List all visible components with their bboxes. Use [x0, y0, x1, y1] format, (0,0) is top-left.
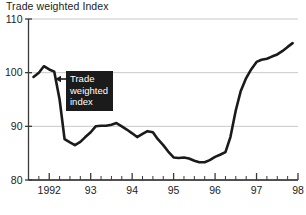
chart-canvas: 1101009080 1992939495969798: [0, 0, 306, 215]
x-tick-labels: 1992939495969798: [38, 184, 304, 196]
svg-text:96: 96: [209, 184, 221, 196]
svg-text:95: 95: [168, 184, 180, 196]
annotation-line-3: index: [70, 96, 108, 108]
svg-text:110: 110: [6, 13, 23, 25]
y-tick-labels: 1101009080: [5, 13, 23, 186]
annotation-line-1: Trade: [70, 73, 108, 85]
svg-text:100: 100: [5, 66, 23, 78]
svg-text:98: 98: [292, 184, 304, 196]
annotation-label: Trade weighted index: [66, 71, 113, 111]
svg-text:80: 80: [11, 174, 23, 186]
svg-text:97: 97: [251, 184, 263, 196]
annotation-line-2: weighted: [70, 85, 108, 97]
svg-text:1992: 1992: [38, 184, 62, 196]
x-tick-marks: [29, 173, 299, 180]
svg-text:93: 93: [85, 184, 97, 196]
chart-figure: Trade weighted Index 1101009080 19929394…: [0, 0, 306, 215]
svg-text:90: 90: [11, 120, 23, 132]
svg-text:94: 94: [126, 184, 138, 196]
